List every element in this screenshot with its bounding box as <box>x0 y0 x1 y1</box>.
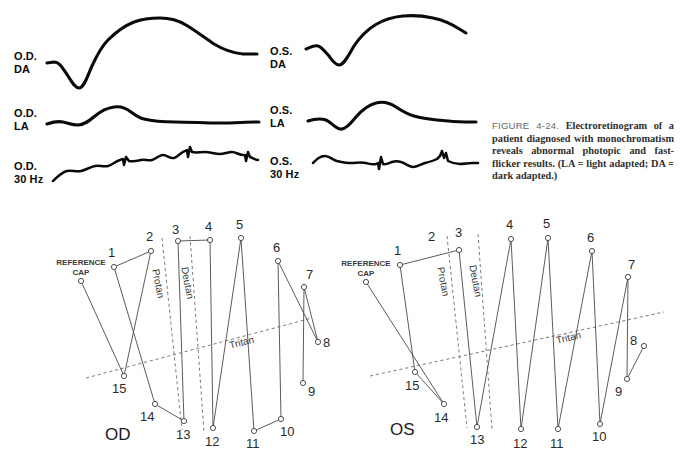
od-cap-num-8: 8 <box>323 335 330 350</box>
od-cap-num-11: 11 <box>246 436 260 451</box>
od-tritan-axis <box>86 318 312 378</box>
os-cap-num-1: 1 <box>394 243 401 258</box>
od-deutan-axis <box>190 236 204 432</box>
os-cap-dot-9 <box>624 376 629 381</box>
os-protan-axis <box>447 236 467 428</box>
os-cap-num-4: 4 <box>506 217 513 232</box>
od-cap-dot-5 <box>238 235 243 240</box>
od-cap-dot-13 <box>181 418 186 423</box>
od-cap-dot-4 <box>207 237 212 242</box>
od-cap-num-14: 14 <box>140 409 154 424</box>
od-cap-num-9: 9 <box>308 384 315 399</box>
od-cap-dot-6 <box>275 258 280 263</box>
od-cap-num-7: 7 <box>306 267 313 282</box>
os-cap-num-8: 8 <box>630 333 637 348</box>
os-cap-num-3: 3 <box>455 225 462 240</box>
od-cap-dot-ref <box>78 278 83 283</box>
os-cap-dot-5 <box>545 235 550 240</box>
fm100-plots-svg <box>0 0 682 455</box>
os-eye-label: OS <box>390 420 415 440</box>
od-cap-num-4: 4 <box>205 219 212 234</box>
od-cap-dot-10 <box>278 416 283 421</box>
od-cap-num-5: 5 <box>236 217 243 232</box>
os-cap-dot-10 <box>597 421 602 426</box>
od-cap-num-13: 13 <box>176 427 190 442</box>
od-cap-dot-15 <box>121 373 126 378</box>
os-cap-dot-12 <box>518 426 523 431</box>
od-cap-dot-3 <box>175 238 180 243</box>
od-cap-num-6: 6 <box>273 240 280 255</box>
os-cap-dot-3 <box>456 247 461 252</box>
od-cap-dot-2 <box>148 248 153 253</box>
os-cap-dot-4 <box>508 236 513 241</box>
od-cap-dot-9 <box>300 380 305 385</box>
os-cap-dot-7 <box>625 274 630 279</box>
os-cap-dot-14 <box>441 401 446 406</box>
os-cap-dot-13 <box>474 424 479 429</box>
od-cap-dot-8 <box>315 339 320 344</box>
od-cap-num-2: 2 <box>146 229 153 244</box>
os-cap-num-11: 11 <box>550 436 564 451</box>
os-cap-num-9: 9 <box>615 384 622 399</box>
os-deutan-axis <box>478 234 492 430</box>
os-cap-polyline <box>366 238 644 429</box>
od-cap-num-10: 10 <box>280 424 294 439</box>
os-cap-num-13: 13 <box>470 432 484 447</box>
od-cap-dots <box>78 235 320 433</box>
od-reference-cap-label: REFERENCE CAP <box>48 258 114 277</box>
od-cap-num-12: 12 <box>205 434 219 449</box>
od-cap-num-3: 3 <box>172 222 179 237</box>
os-reference-cap-label: REFERENCE CAP <box>333 259 399 278</box>
os-cap-num-15: 15 <box>405 378 419 393</box>
os-cap-dot-8 <box>641 343 646 348</box>
os-cap-dot-11 <box>555 426 560 431</box>
os-cap-dot-15 <box>412 369 417 374</box>
od-cap-dot-14 <box>152 401 157 406</box>
os-cap-num-10: 10 <box>592 429 606 444</box>
od-cap-dot-7 <box>301 284 306 289</box>
figure-4-24: O.D. DA O.S. DA O.D. LA O.S. LA O.D. 30 … <box>0 0 682 455</box>
os-cap-num-6: 6 <box>587 230 594 245</box>
os-cap-num-14: 14 <box>434 410 448 425</box>
od-cap-num-1: 1 <box>108 245 115 260</box>
od-eye-label: OD <box>105 425 131 445</box>
os-cap-num-2: 2 <box>428 229 435 244</box>
os-cap-dot-6 <box>589 248 594 253</box>
os-cap-num-5: 5 <box>543 216 550 231</box>
od-cap-dot-12 <box>210 425 215 430</box>
os-cap-num-12: 12 <box>513 436 527 451</box>
os-cap-dot-ref <box>363 279 368 284</box>
os-cap-num-7: 7 <box>628 257 635 272</box>
od-cap-num-15: 15 <box>112 381 126 396</box>
od-cap-dot-11 <box>251 428 256 433</box>
